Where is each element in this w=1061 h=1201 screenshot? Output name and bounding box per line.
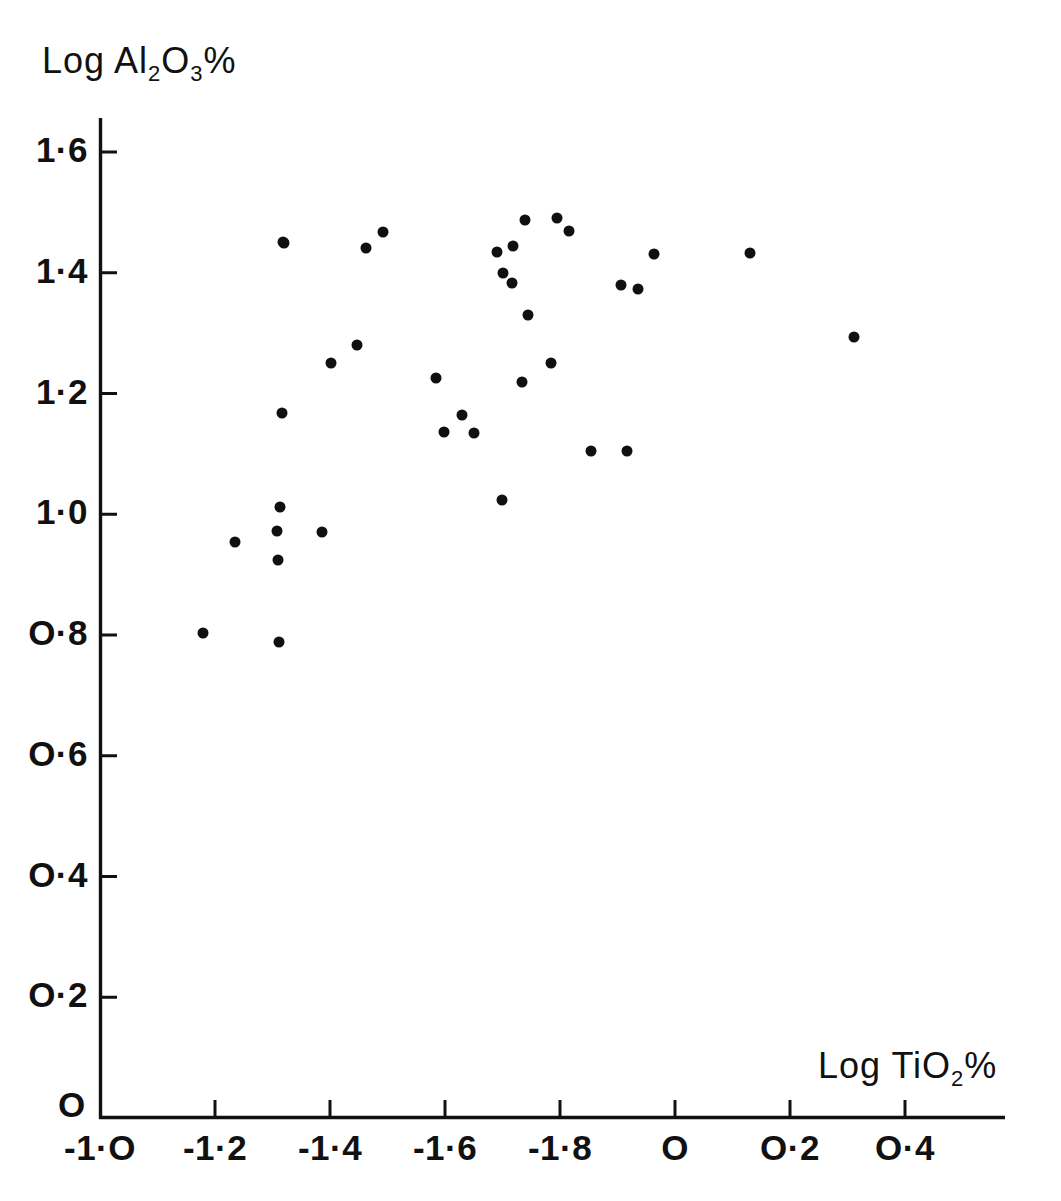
data-point — [277, 408, 288, 419]
data-point — [326, 358, 337, 369]
x-axis-ticks — [215, 1100, 905, 1118]
data-point — [361, 243, 372, 254]
data-point — [633, 284, 644, 295]
data-point — [586, 446, 597, 457]
data-point — [622, 446, 633, 457]
y-axis-title-sub-3: 3 — [190, 61, 203, 86]
y-axis-tick-label: 1·0 — [0, 492, 88, 532]
data-point — [745, 248, 756, 259]
data-point — [439, 427, 450, 438]
y-axis-origin-label: O — [58, 1085, 85, 1125]
x-axis-title-sub-2: 2 — [951, 1066, 964, 1091]
y-axis-tick-label: O·6 — [0, 734, 88, 774]
y-axis-title-prefix: Log Al — [42, 40, 148, 81]
data-points-group — [198, 213, 860, 648]
data-point — [520, 215, 531, 226]
data-point — [273, 555, 284, 566]
data-point — [230, 537, 241, 548]
y-axis-tick-label: O·8 — [0, 613, 88, 653]
y-axis-title: Log Al2O3% — [42, 40, 237, 87]
data-point — [546, 358, 557, 369]
data-point — [508, 241, 519, 252]
data-point — [352, 340, 363, 351]
y-axis-title-mid: O — [161, 40, 190, 81]
scatter-plot-figure: Log Al2O3% Log TiO2% O 1·61·41·21·0O·8O·… — [0, 0, 1061, 1201]
plot-canvas — [0, 0, 1061, 1201]
data-point — [272, 526, 283, 537]
y-axis-tick-label: 1·2 — [0, 372, 88, 412]
data-point — [849, 332, 860, 343]
data-point — [274, 637, 285, 648]
x-axis-tick-label: O·4 — [830, 1128, 980, 1168]
y-axis-title-suffix: % — [204, 40, 237, 81]
x-axis-title-suffix: % — [964, 1045, 997, 1086]
y-axis-tick-label: O·4 — [0, 855, 88, 895]
y-axis-title-sub-2: 2 — [148, 61, 161, 86]
data-point — [457, 410, 468, 421]
data-point — [469, 428, 480, 439]
x-axis-title-prefix: Log TiO — [818, 1045, 951, 1086]
data-point — [498, 268, 509, 279]
y-axis-tick-label: 1·4 — [0, 251, 88, 291]
data-point — [497, 495, 508, 506]
axis-lines — [99, 118, 1005, 1119]
data-point — [564, 226, 575, 237]
data-point — [275, 502, 286, 513]
y-axis-tick-label: 1·6 — [0, 130, 88, 170]
data-point — [278, 237, 289, 248]
data-point — [431, 373, 442, 384]
data-point — [198, 628, 209, 639]
data-point — [507, 278, 518, 289]
y-axis-tick-label: O·2 — [0, 975, 88, 1015]
data-point — [649, 249, 660, 260]
data-point — [517, 377, 528, 388]
data-point — [552, 213, 563, 224]
data-point — [616, 280, 627, 291]
x-axis-title: Log TiO2% — [818, 1045, 997, 1092]
data-point — [492, 247, 503, 258]
y-axis-ticks — [100, 152, 117, 997]
data-point — [317, 527, 328, 538]
data-point — [523, 310, 534, 321]
data-point — [378, 227, 389, 238]
